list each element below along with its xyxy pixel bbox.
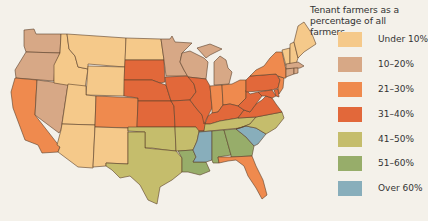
legend-item-under-10: Under 10% bbox=[328, 32, 428, 46]
legend-label: Under 10% bbox=[378, 34, 428, 44]
legend-swatch bbox=[338, 57, 362, 72]
legend-item-31-40: 31–40% bbox=[328, 107, 428, 121]
legend-item-over-60: Over 60% bbox=[328, 181, 428, 195]
legend-swatch bbox=[338, 32, 362, 47]
legend-label: 21–30% bbox=[378, 84, 414, 94]
state-south-dakota bbox=[124, 60, 165, 83]
state-connecticut bbox=[286, 68, 294, 77]
state-washington bbox=[24, 29, 61, 53]
state-pennsylvania bbox=[246, 74, 280, 92]
legend-swatch bbox=[338, 132, 362, 147]
legend-label: 51–60% bbox=[378, 158, 414, 168]
legend-swatch bbox=[338, 156, 362, 171]
state-colorado bbox=[95, 96, 138, 128]
state-north-dakota bbox=[125, 38, 164, 60]
state-wyoming bbox=[86, 66, 125, 96]
state-rhode-island bbox=[294, 68, 298, 74]
state-arizona bbox=[57, 124, 95, 168]
state-florida bbox=[218, 156, 267, 199]
legend-label: 31–40% bbox=[378, 109, 414, 119]
legend-swatch bbox=[338, 82, 362, 97]
legend-swatch bbox=[338, 181, 362, 196]
map-legend: Tenant farmers as a percentage of all fa… bbox=[310, 4, 414, 37]
legend-title-line1: Tenant farmers as a bbox=[310, 4, 414, 15]
legend-item-10-20: 10–20% bbox=[328, 57, 428, 71]
state-oregon bbox=[15, 52, 60, 81]
legend-item-21-30: 21–30% bbox=[328, 82, 428, 96]
legend-item-51-60: 51–60% bbox=[328, 156, 428, 170]
state-new-york bbox=[250, 52, 286, 78]
legend-swatch bbox=[338, 107, 362, 122]
legend-item-41-50: 41–50% bbox=[328, 132, 428, 146]
state-new-mexico bbox=[93, 127, 128, 167]
state-kansas bbox=[137, 101, 175, 127]
legend-label: 10–20% bbox=[378, 59, 414, 69]
legend-label: 41–50% bbox=[378, 134, 414, 144]
legend-label: Over 60% bbox=[378, 183, 423, 193]
